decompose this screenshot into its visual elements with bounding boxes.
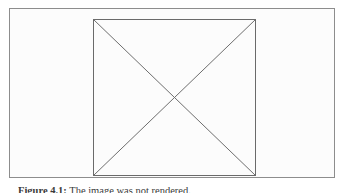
figure-caption-text: The image was not rendered.	[69, 185, 191, 193]
figure-caption-label: Figure 4.1:	[18, 185, 67, 193]
figure-caption: Figure 4.1: The image was not rendered.	[18, 184, 328, 193]
crossed-box-placeholder	[93, 19, 256, 176]
figure-bounding-box	[9, 8, 335, 178]
figure-block: Figure 4.1: The image was not rendered.	[0, 0, 344, 193]
placeholder-svg	[93, 19, 256, 176]
